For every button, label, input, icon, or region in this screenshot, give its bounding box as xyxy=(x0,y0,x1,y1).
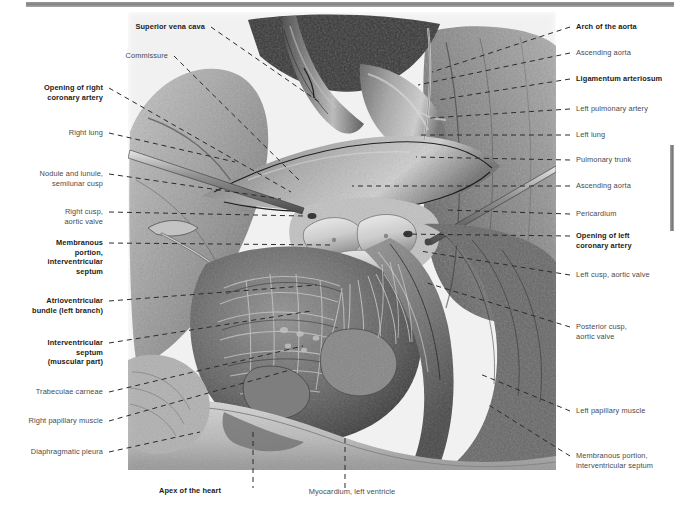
label-diaphragmatic-pleura: Diaphragmatic pleura xyxy=(0,447,103,457)
label-left-cusp-aortic-valve: Left cusp, aortic valve xyxy=(576,270,678,280)
label-ascending-aorta-top: Ascending aorta xyxy=(576,48,678,58)
label-apex-of-the-heart: Apex of the heart xyxy=(120,486,260,496)
heart-dissection-drawing xyxy=(128,12,556,470)
label-superior-vena-cava: Superior vena cava xyxy=(0,22,205,32)
label-left-pulmonary-artery: Left pulmonary artery xyxy=(576,104,678,114)
label-myocardium-left-ventricle: Myocardium, left ventricle xyxy=(282,487,422,497)
label-ascending-aorta-mid: Ascending aorta xyxy=(576,181,678,191)
label-right-cusp-aortic-valve: Right cusp, aortic valve xyxy=(0,207,103,226)
label-opening-of-left-coronary-artery: Opening of left coronary artery xyxy=(576,231,678,250)
label-posterior-cusp-aortic-valve: Posterior cusp, aortic valve xyxy=(576,322,678,341)
label-commissure: Commissure xyxy=(0,51,168,61)
label-nodule-and-lunule: Nodule and lunule, semilunar cusp xyxy=(0,169,103,188)
label-right-lung: Right lung xyxy=(0,128,103,138)
anatomical-illustration xyxy=(128,12,556,470)
label-left-lung: Left lung xyxy=(576,130,678,140)
label-ligamentum-arteriosum: Ligamentum arteriosum xyxy=(576,74,678,84)
figure-page: Superior vena cavaCommissureOpening of r… xyxy=(0,0,682,510)
label-atrioventricular-bundle: Atrioventricular bundle (left branch) xyxy=(0,296,103,315)
label-trabeculae-carneae: Trabeculae carneae xyxy=(0,387,103,397)
top-divider-rule xyxy=(26,2,674,7)
label-right-papillary-muscle: Right papillary muscle xyxy=(0,416,103,426)
label-pulmonary-trunk: Pulmonary trunk xyxy=(576,155,678,165)
label-interventricular-septum-muscular: Interventricular septum (muscular part) xyxy=(0,338,103,367)
label-opening-of-right-coronary-artery: Opening of right coronary artery xyxy=(0,83,103,102)
label-arch-of-the-aorta: Arch of the aorta xyxy=(576,22,678,32)
label-left-papillary-muscle: Left papillary muscle xyxy=(576,406,678,416)
label-membranous-portion-ivs-right: Membranous portion, interventricular sep… xyxy=(576,451,678,470)
label-pericardium: Pericardium xyxy=(576,209,678,219)
label-membranous-portion-ivs: Membranous portion, interventricular sep… xyxy=(0,238,103,276)
